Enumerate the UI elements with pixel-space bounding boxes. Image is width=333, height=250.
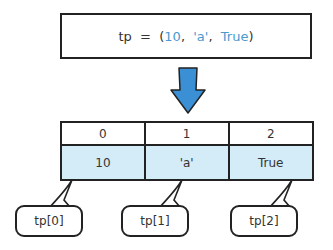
callout-tp1: tp[1] [121, 205, 189, 237]
callout-tp0: tp[0] [15, 205, 83, 237]
callout-tp2: tp[2] [230, 205, 298, 237]
